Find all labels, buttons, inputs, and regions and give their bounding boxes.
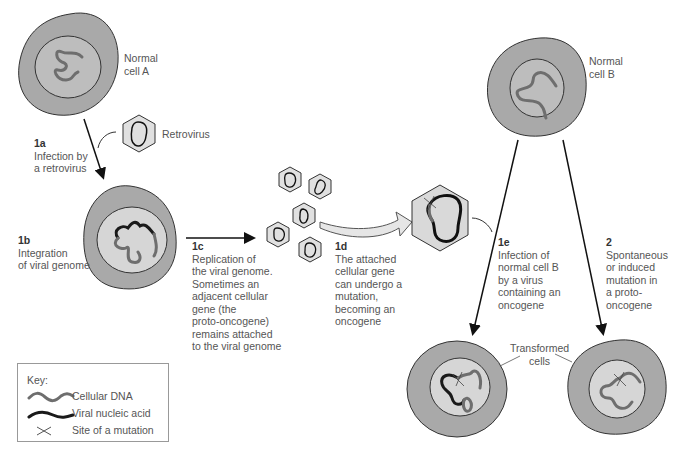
step-text: Integration of viral genome (18, 247, 90, 272)
step-1e: 1eInfection of normal cell B by a virus … (498, 236, 560, 311)
step-2: 2Spontaneous or induced mutation in a pr… (606, 236, 668, 311)
arrow-2 (563, 140, 603, 333)
arrow-1d (320, 212, 412, 237)
step-text: Spontaneous or induced mutation in a pro… (606, 249, 668, 311)
step-text: The attached cellular gene can undergo a… (335, 253, 402, 328)
step-id: 1c (192, 240, 281, 253)
label-normal-cell-b: Normal cell B (589, 55, 623, 80)
step-id: 2 (606, 236, 668, 249)
legend-key: Key: Cellular DNA Viral nucleic acid Sit… (17, 363, 169, 442)
cellular-dna-icon (27, 390, 77, 404)
step-1c: 1cReplication of the viral genome. Somet… (192, 240, 281, 353)
cell-with-integrated-viral-genome (84, 186, 176, 289)
step-1b: 1bIntegration of viral genome (18, 234, 90, 272)
label-retrovirus: Retrovirus (162, 128, 210, 141)
transformed-cell-2 (568, 340, 666, 434)
legend-label: Site of a mutation (72, 424, 154, 436)
legend-label: Viral nucleic acid (72, 407, 151, 419)
viral-nucleic-acid-icon (27, 407, 77, 421)
virus-with-oncogene (412, 185, 492, 251)
step-1a: 1aInfection by a retrovirus (34, 137, 88, 175)
normal-cell-a (19, 13, 119, 115)
step-text: Infection of normal cell B by a virus co… (498, 249, 560, 311)
legend-title: Key: (27, 374, 48, 386)
step-1d: 1dThe attached cellular gene can undergo… (335, 240, 402, 328)
step-id: 1e (498, 236, 560, 249)
step-id: 1d (335, 240, 402, 253)
label-transformed-cells: Transformed cells (510, 342, 569, 367)
normal-cell-b (487, 38, 586, 136)
step-text: Replication of the viral genome. Sometim… (192, 253, 281, 353)
retrovirus-particle (98, 115, 155, 152)
transformed-cell-1e (407, 341, 507, 437)
step-id: 1a (34, 137, 88, 150)
mutation-site-icon (27, 424, 77, 438)
step-id: 1b (18, 234, 90, 247)
legend-label: Cellular DNA (72, 390, 133, 402)
step-text: Infection by a retrovirus (34, 150, 88, 175)
label-normal-cell-a: Normal cell A (124, 52, 158, 77)
